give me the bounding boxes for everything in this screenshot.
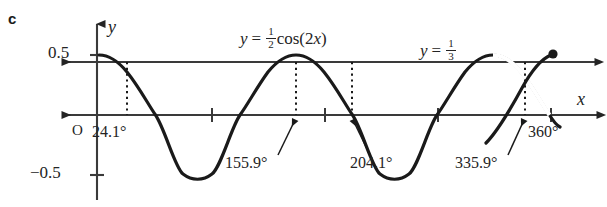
origin-label: O — [72, 123, 83, 138]
cosine-eq-fraction: 1 2 — [266, 26, 276, 51]
cosine-eq-equals: = — [252, 30, 262, 47]
line-eq-fraction: 1 3 — [446, 38, 456, 63]
line-eq-numerator: 1 — [446, 38, 456, 50]
cosine-equation-label: y = 1 2 cos(2 x ) — [240, 26, 327, 51]
line-eq-denominator: 3 — [446, 50, 456, 63]
horizontal-line-equation-label: y = 1 3 — [420, 38, 457, 63]
x-axis-label: x — [577, 90, 585, 108]
leader-204 — [353, 120, 370, 155]
cosine-eq-close: ) — [321, 30, 327, 47]
part-label: c — [8, 10, 16, 27]
leader-336 — [508, 120, 524, 155]
curve-endpoint-dot — [548, 49, 557, 58]
figure-canvas: c y x 0.5 −-0.50.5 O y = 1 2 cos(2 x ) y… — [0, 0, 607, 207]
angle-label-156: 155.9° — [225, 155, 267, 171]
cosine-eq-lhs: y — [240, 30, 248, 47]
angle-label-24: 24.1° — [92, 124, 126, 140]
cosine-eq-denominator: 2 — [266, 38, 276, 51]
leader-lines — [278, 120, 524, 155]
y-axis-label: y — [108, 18, 116, 36]
leader-156 — [278, 120, 295, 155]
angle-label-336: 335.9° — [455, 155, 497, 171]
x-tick-label-360: 360° — [528, 124, 558, 140]
cosine-eq-variable: x — [313, 30, 321, 47]
cosine-eq-numerator: 1 — [266, 26, 276, 38]
angle-label-204: 204.1° — [350, 155, 392, 171]
line-eq-lhs: y — [420, 42, 428, 59]
y-tick-label-positive: 0.5 — [48, 44, 69, 61]
y-tick-label-negative: −-0.50.5 — [30, 164, 61, 181]
line-eq-equals: = — [432, 42, 442, 59]
cosine-eq-function: cos(2 — [277, 30, 314, 47]
